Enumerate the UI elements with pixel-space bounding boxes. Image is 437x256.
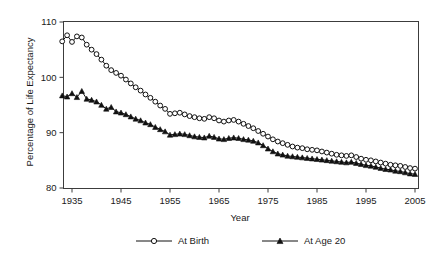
data-point (192, 115, 197, 120)
data-point (320, 149, 325, 154)
data-point (241, 121, 246, 126)
data-point (173, 111, 178, 116)
data-series-layer (60, 33, 418, 177)
data-point (143, 92, 148, 97)
data-point (275, 139, 280, 144)
chart-plot: 8090100110 19351945195519651975198519952… (0, 0, 437, 256)
chart-legend: At BirthAt Age 20 (136, 235, 345, 246)
legend-marker-open-circle-icon (151, 238, 156, 243)
data-point (182, 112, 187, 117)
data-point (339, 153, 344, 158)
data-point (295, 145, 300, 150)
legend-label: At Age 20 (304, 235, 345, 246)
data-point (226, 118, 231, 123)
data-point (60, 93, 65, 98)
data-point (79, 88, 84, 93)
data-point (383, 161, 388, 166)
data-point (324, 150, 329, 155)
data-point (251, 126, 256, 131)
x-tick-label: 1935 (61, 195, 82, 206)
y-tick-label: 100 (41, 72, 57, 83)
data-point (187, 114, 192, 119)
data-point (222, 119, 227, 124)
data-point (305, 147, 310, 152)
x-axis-title: Year (230, 212, 249, 223)
data-point (128, 114, 133, 119)
data-point (315, 148, 320, 153)
data-point (84, 96, 89, 101)
y-tick-label: 110 (41, 16, 56, 27)
data-point (158, 127, 163, 132)
data-point (124, 77, 129, 82)
legend-item-1[interactable]: At Birth (136, 235, 209, 246)
data-point (143, 120, 148, 125)
data-point (99, 102, 104, 107)
data-point (70, 40, 75, 45)
data-point (84, 42, 89, 47)
data-point (217, 118, 222, 123)
data-point (413, 166, 418, 171)
data-point (285, 142, 290, 147)
y-tick-label: 90 (46, 127, 57, 138)
x-tick-label: 1975 (257, 195, 278, 206)
data-point (128, 81, 133, 86)
data-point (398, 163, 403, 168)
data-point (69, 91, 74, 96)
legend-label: At Birth (178, 235, 209, 246)
data-point (364, 157, 369, 162)
data-point (94, 52, 99, 57)
data-point (280, 141, 285, 146)
x-tick-label: 1995 (355, 195, 376, 206)
data-point (354, 155, 359, 160)
data-point (212, 116, 217, 121)
data-point (300, 146, 305, 151)
data-point (310, 147, 315, 152)
x-tick-label: 1965 (208, 195, 229, 206)
data-point (133, 116, 138, 121)
data-point (236, 119, 241, 124)
data-point (202, 116, 207, 121)
data-point (349, 153, 354, 158)
data-point (369, 158, 374, 163)
data-point (133, 85, 138, 90)
data-point (138, 88, 143, 93)
x-axis-tick-labels: 19351945195519651975198519952005 (61, 195, 425, 206)
data-point (153, 99, 158, 104)
legend-item-2[interactable]: At Age 20 (262, 235, 345, 246)
chart-figure: Percentage of Life Expectancy 8090100110… (0, 0, 437, 256)
data-point (65, 33, 70, 38)
data-point (408, 166, 413, 171)
data-point (246, 124, 251, 129)
data-point (60, 39, 65, 44)
x-tick-label: 2005 (404, 195, 425, 206)
data-point (75, 34, 80, 39)
data-point (119, 73, 124, 78)
data-point (290, 144, 295, 149)
data-point (231, 118, 236, 123)
y-axis-ticks (60, 22, 64, 188)
x-tick-label: 1955 (159, 195, 180, 206)
data-point (79, 35, 84, 40)
data-point (403, 165, 408, 170)
data-point (109, 105, 114, 110)
data-point (265, 146, 270, 151)
data-point (158, 103, 163, 108)
data-point (378, 160, 383, 165)
data-point (99, 57, 104, 62)
data-point (89, 47, 94, 52)
data-point (114, 71, 119, 76)
y-tick-label: 80 (46, 182, 57, 193)
data-point (329, 151, 334, 156)
data-point (261, 131, 266, 136)
series-2 (60, 88, 418, 176)
data-point (207, 115, 212, 120)
data-point (104, 63, 109, 68)
data-point (163, 106, 168, 111)
data-point (197, 116, 202, 121)
series-1 (60, 33, 418, 171)
data-point (109, 68, 114, 73)
data-point (344, 154, 349, 159)
data-point (271, 137, 276, 142)
x-axis-ticks (72, 189, 415, 193)
data-point (256, 129, 261, 134)
